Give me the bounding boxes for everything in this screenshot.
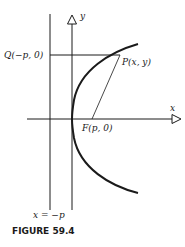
x-axis-arrow-icon xyxy=(172,115,181,124)
f-point-label: F(p, 0) xyxy=(81,123,113,133)
parabola-diagram: y x Q(−p, 0) P(x, y) F(p, 0) x = −p FIGU… xyxy=(0,0,185,247)
y-axis-arrow-icon xyxy=(68,15,77,24)
y-axis-label: y xyxy=(79,11,86,21)
q-point-label: Q(−p, 0) xyxy=(4,50,44,60)
p-point-label: P(x, y) xyxy=(121,57,151,67)
x-axis-label: x xyxy=(170,103,175,113)
directrix-label: x = −p xyxy=(33,210,65,220)
figure-caption: FIGURE 59.4 xyxy=(12,226,75,236)
